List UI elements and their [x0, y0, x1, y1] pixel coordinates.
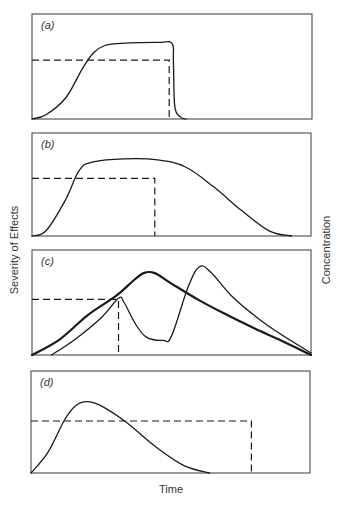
panels-group: (a)(b)(c)(d) — [31, 14, 312, 473]
severity-curve-thick — [32, 272, 311, 355]
severity-curve — [31, 402, 210, 473]
toxicity-time-course-figure: (a)(b)(c)(d) Severity of Effects Concent… — [0, 0, 340, 505]
concentration-line — [31, 421, 251, 473]
panel-d: (d) — [31, 371, 310, 473]
panel-frame — [32, 14, 312, 119]
panel-a: (a) — [32, 14, 312, 119]
y-axis-label-left: Severity of Effects — [8, 205, 20, 294]
panel-frame — [32, 250, 311, 355]
severity-curve — [32, 42, 186, 119]
panel-b: (b) — [32, 133, 311, 236]
panel-label: (d) — [40, 376, 54, 388]
severity-curve — [52, 266, 312, 355]
severity-curve — [32, 159, 292, 236]
panel-label: (c) — [41, 255, 54, 267]
panel-c: (c) — [32, 250, 311, 355]
panel-frame — [32, 133, 311, 236]
x-axis-label: Time — [159, 483, 183, 495]
concentration-line — [32, 178, 155, 236]
y-axis-label-right: Concentration — [320, 216, 332, 285]
panel-label: (a) — [41, 19, 55, 31]
panel-label: (b) — [41, 138, 55, 150]
